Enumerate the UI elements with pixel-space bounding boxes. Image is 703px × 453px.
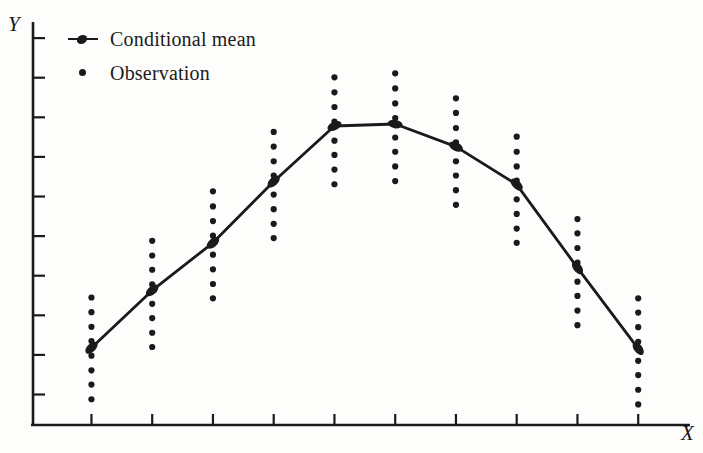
plot-area xyxy=(0,0,703,453)
observation-points xyxy=(88,70,641,407)
x-axis-label: X xyxy=(681,423,694,444)
axes xyxy=(31,22,690,425)
figure-canvas: Y Conditional mean Observation X xyxy=(0,0,703,453)
conditional-mean-line xyxy=(83,119,646,357)
